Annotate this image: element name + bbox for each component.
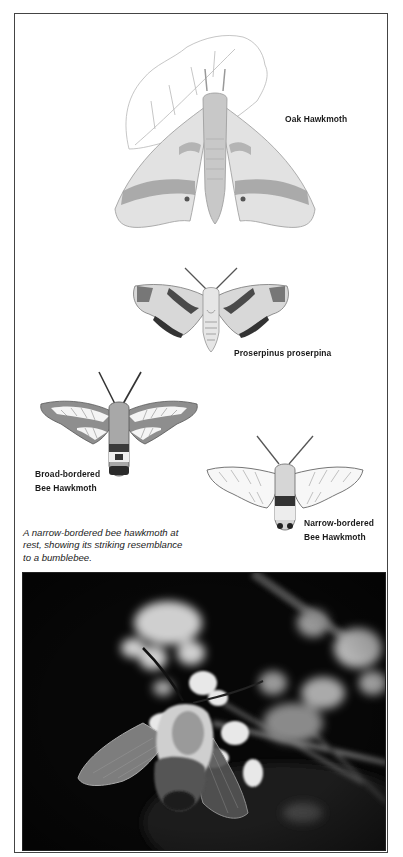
proserpinus-proserpina-illustration — [129, 262, 293, 354]
broad-bordered-bee-hawkmoth-illustration — [37, 368, 203, 478]
narrow-bordered-bee-hawkmoth-label: Narrow-bordered Bee Hawkmoth — [304, 516, 374, 544]
oak-hawkmoth-label: Oak Hawkmoth — [285, 112, 347, 126]
bee-hawkmoth-photo — [22, 572, 386, 851]
illustration-plate: Oak Hawkmoth Proserpinus proserpina — [14, 13, 388, 853]
photo-scene — [23, 573, 386, 851]
broad-bordered-bee-hawkmoth-label: Broad-bordered Bee Hawkmoth — [35, 467, 100, 495]
proserpinus-proserpina-label: Proserpinus proserpina — [234, 346, 331, 360]
photo-caption: A narrow-bordered bee hawkmoth at rest, … — [23, 527, 213, 564]
oak-hawkmoth-body — [203, 69, 227, 224]
oak-hawkmoth-illustration — [95, 29, 335, 239]
